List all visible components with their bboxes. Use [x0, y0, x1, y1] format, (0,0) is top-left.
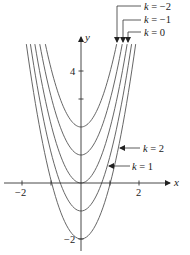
y-axis-label: y — [84, 31, 90, 43]
label-k-1: k = 1 — [132, 161, 153, 172]
label-k-neg2: k = −2 — [144, 1, 171, 12]
y-tick-label-neg2: −2 — [64, 234, 75, 245]
parabola-family-diagram: x y −2 2 4 −2 k = −2 k = −1 k = 0 k = 2 … — [0, 0, 190, 255]
label-k-neg1: k = −1 — [144, 14, 171, 25]
x-tick-label-neg2: −2 — [15, 187, 26, 198]
x-axis-label: x — [173, 176, 179, 188]
y-tick-label-4: 4 — [70, 66, 76, 77]
label-k-2: k = 2 — [143, 143, 164, 154]
x-tick-label-2: 2 — [136, 187, 141, 198]
label-k-0: k = 0 — [144, 27, 165, 38]
